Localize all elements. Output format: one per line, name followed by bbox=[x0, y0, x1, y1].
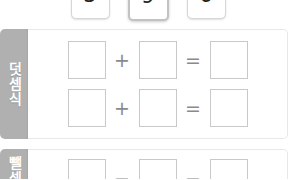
number-card-value: 3 bbox=[83, 0, 96, 8]
number-card-value: 6 bbox=[199, 0, 212, 8]
number-card-strip: 3 9 6 bbox=[0, 0, 296, 22]
equation-row: + = bbox=[68, 41, 248, 79]
answer-box[interactable] bbox=[210, 89, 248, 127]
equals-icon: = bbox=[184, 99, 203, 118]
answer-box[interactable] bbox=[210, 41, 248, 79]
minus-icon: − bbox=[113, 169, 132, 180]
section-body-addition: + = + = bbox=[28, 29, 288, 139]
answer-box[interactable] bbox=[139, 89, 177, 127]
worksheet-screen: 3 9 6 덧셈식 + = + = bbox=[0, 0, 296, 179]
section-tab-label: 덧셈식 bbox=[7, 62, 22, 107]
equals-icon: = bbox=[184, 51, 203, 70]
answer-box[interactable] bbox=[68, 89, 106, 127]
section-addition: 덧셈식 + = + = bbox=[0, 29, 288, 139]
number-card[interactable]: 3 bbox=[71, 0, 110, 19]
number-card-value: 9 bbox=[141, 0, 154, 9]
minus-icon: − bbox=[184, 169, 203, 180]
section-tab-label: 뺄셈식 bbox=[7, 156, 22, 180]
answer-box[interactable] bbox=[68, 41, 106, 79]
number-card[interactable]: 9 bbox=[128, 0, 169, 21]
section-body-subtraction: − − bbox=[28, 149, 288, 179]
answer-box[interactable] bbox=[139, 41, 177, 79]
section-subtraction: 뺄셈식 − − bbox=[0, 149, 288, 179]
number-card[interactable]: 6 bbox=[187, 0, 226, 19]
equation-row: + = bbox=[68, 89, 248, 127]
plus-icon: + bbox=[113, 51, 132, 70]
equation-row: − − bbox=[68, 159, 248, 179]
answer-box[interactable] bbox=[139, 159, 177, 179]
answer-box[interactable] bbox=[210, 159, 248, 179]
section-tab-addition: 덧셈식 bbox=[0, 29, 28, 139]
section-tab-subtraction: 뺄셈식 bbox=[0, 149, 28, 179]
plus-icon: + bbox=[113, 99, 132, 118]
answer-box[interactable] bbox=[68, 159, 106, 179]
